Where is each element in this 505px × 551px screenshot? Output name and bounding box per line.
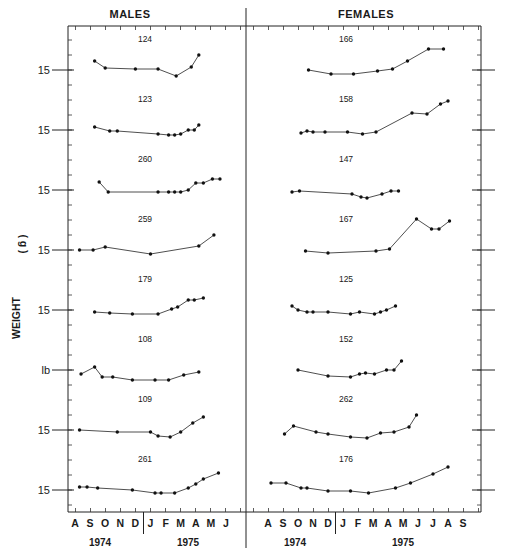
data-point [415,413,418,416]
data-point [168,435,171,438]
month-label: M [207,517,216,529]
data-point [191,421,194,424]
data-point [349,435,352,438]
data-point [156,67,159,70]
month-label: A [192,517,200,529]
series-id-label: 179 [138,274,152,284]
month-label: A [71,517,79,529]
series-158: 158 [299,94,449,136]
data-point [442,47,445,50]
data-point [91,248,94,251]
month-labels: ASONDJFMAMJASONDJFMAMJJAS [71,517,466,529]
data-point [173,190,176,193]
series-125: 125 [290,274,397,316]
data-point [149,430,152,433]
data-point [446,99,449,102]
month-label: S [459,517,466,529]
series-id-label: 176 [339,454,353,464]
data-point [187,486,190,489]
series-id-label: 166 [339,34,353,44]
month-label: A [384,517,392,529]
data-point [156,190,159,193]
data-point [323,130,326,133]
data-point [379,431,382,434]
series-id-label: 261 [138,454,152,464]
data-point [156,132,159,135]
month-label: A [444,517,452,529]
data-point [176,305,179,308]
data-point [376,69,379,72]
year-label-1975-females: 1975 [392,537,415,548]
series-id-label: 262 [339,394,353,404]
series-line [99,179,220,192]
series-109: 109 [78,394,205,439]
data-point [167,133,170,136]
data-point [392,368,395,371]
data-point [374,130,377,133]
month-label: N [117,517,125,529]
month-label: F [162,517,169,529]
month-label: D [324,517,332,529]
series-id-label: 152 [339,334,353,344]
data-point [179,190,182,193]
data-point [116,129,119,132]
data-point [407,425,410,428]
data-point [197,53,200,56]
data-point [179,430,182,433]
data-point [448,219,451,222]
data-point [358,310,361,313]
data-point [314,430,317,433]
data-point [85,485,88,488]
data-point [292,424,295,427]
data-point [296,308,299,311]
series-id-label: 147 [339,154,353,164]
chart-frame [68,8,481,548]
series-layer: 1241232602591791081092611661581471671251… [78,34,451,495]
data-point [78,248,81,251]
month-label: J [148,517,154,529]
data-point [290,304,293,307]
series-176: 176 [269,454,449,495]
series-147: 147 [290,154,400,200]
data-point [212,233,215,236]
data-point [349,312,352,315]
data-point [187,188,190,191]
data-point [394,304,397,307]
reference-label: 15 [38,64,50,76]
data-point [352,72,355,75]
series-line [306,219,450,253]
data-point [167,378,170,381]
data-point [284,481,287,484]
data-point [79,372,82,375]
data-point [365,196,368,199]
month-label: J [430,517,436,529]
data-point [296,368,299,371]
month-label: M [369,517,378,529]
data-point [156,312,159,315]
reference-label: 15 [38,124,50,136]
data-point [349,375,352,378]
reference-label: 15 [38,184,50,196]
data-point [197,370,200,373]
series-id-label: 123 [138,94,152,104]
data-point [202,296,205,299]
data-point [437,227,440,230]
series-259: 259 [78,214,216,256]
month-label: S [279,517,286,529]
series-152: 152 [296,334,403,379]
data-point [304,249,307,252]
series-line [301,101,448,134]
data-point [218,177,221,180]
data-point [173,491,176,494]
month-label: O [294,517,302,529]
data-point [394,486,397,489]
data-point [385,308,388,311]
data-point [107,190,110,193]
data-point [388,247,391,250]
data-point [179,132,182,135]
data-point [299,131,302,134]
data-point [415,217,418,220]
data-point [311,130,314,133]
series-line [80,417,204,437]
series-line [285,415,417,438]
